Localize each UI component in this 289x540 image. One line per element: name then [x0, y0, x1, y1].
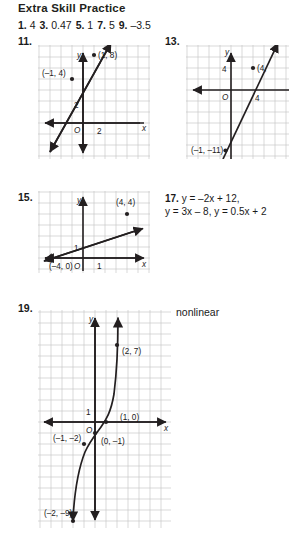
point-label-1-8: (1, 8) [98, 51, 117, 60]
point-label-2-7: (2, 7) [122, 347, 141, 356]
answer-value: –3.5 [130, 19, 150, 31]
graph-19: (2, 7) (1, 0) (0, –1) (–1, –2) (–2, –9) … [38, 310, 171, 528]
graph-13: (–1, –11) (4, 4 4 O y [186, 45, 289, 159]
answer-value: 0.47 [51, 19, 71, 31]
graph-15-svg: (4, 4) (–4, 0) 1 1 O y x [38, 191, 150, 273]
origin-label-15: O [74, 262, 81, 271]
answer-item: 9. –3.5 [119, 19, 151, 31]
axes-15 [45, 197, 144, 271]
plot-line-15 [44, 229, 143, 262]
y-tick-1: 1 [74, 244, 79, 253]
answer-item: 1. 4 [18, 19, 36, 31]
answer-value: 4 [30, 19, 36, 31]
point-label-neg2-neg9: (–2, –9) [44, 509, 72, 518]
point-label-neg1-neg11: (–1, –11) [191, 146, 223, 155]
y-axis-label-11: y [76, 51, 82, 60]
answer-item: 5. 1 [76, 19, 94, 31]
problem-number-15: 15. [18, 191, 33, 203]
origin-label-11: O [74, 126, 81, 135]
grid-lines-19 [38, 310, 171, 528]
graph-15: (4, 4) (–4, 0) 1 1 O y x [38, 191, 150, 273]
plot-line-11 [50, 45, 111, 152]
point-label-0-neg1: (0, –1) [101, 437, 125, 446]
answer-number: 5. [76, 19, 85, 31]
graph-13-svg: (–1, –11) (4, 4 4 O y [186, 45, 289, 159]
x-axis-label-19: x [163, 424, 169, 433]
y-tick-2: 2 [74, 101, 79, 110]
origin-label-13: O [222, 93, 229, 102]
answer-number: 7. [97, 19, 106, 31]
answer-list: 1. 43. 0.475. 17. 59. –3.5 [18, 19, 155, 31]
x-axis-label-15: x [141, 260, 147, 269]
y-axis-label-19: y [88, 315, 94, 324]
worksheet-page: Extra Skill Practice 1. 43. 0.475. 17. 5… [0, 0, 289, 540]
problem-number-13: 13. [165, 35, 180, 47]
graph-11: (–1, 4) (1, 8) 2 2 O y x [38, 45, 150, 159]
problem-number-17: 17. [165, 193, 179, 204]
problem-19-answer: nonlinear [176, 306, 219, 318]
x-axis-label-11: x [141, 124, 147, 133]
axes-13 [193, 53, 289, 159]
answer-item: 7. 5 [97, 19, 115, 31]
y-axis-label-15: y [76, 196, 82, 205]
point-label-4-4: (4, [257, 64, 267, 73]
answer-value: 1 [87, 19, 93, 31]
y-tick-1-g19: 1 [86, 408, 91, 417]
problem-17-line1: 17. y = –2x + 12, [165, 192, 266, 205]
answer-item: 3. 0.47 [40, 19, 72, 31]
problem-number-19: 19. [18, 302, 33, 314]
point-label-neg4-0: (–4, 0) [49, 262, 73, 271]
problem-17-line2: y = 3x – 8, y = 0.5x + 2 [165, 205, 266, 218]
point-label-neg1-4: (–1, 4) [42, 69, 66, 78]
graph-19-svg: (2, 7) (1, 0) (0, –1) (–1, –2) (–2, –9) … [38, 310, 171, 528]
point-label-neg1-neg2: (–1, –2) [53, 434, 81, 443]
origin-label-19: O [86, 426, 93, 435]
answer-value: 5 [109, 19, 115, 31]
x-tick-4: 4 [255, 94, 260, 103]
point-label-1-0: (1, 0) [120, 413, 139, 422]
y-axis-label-13: y [224, 48, 230, 57]
problem-17-eq1: y = –2x + 12, [182, 193, 240, 204]
problem-17-answer: 17. y = –2x + 12, y = 3x – 8, y = 0.5x +… [165, 192, 266, 218]
problem-number-11: 11. [18, 35, 32, 47]
x-tick-1: 1 [97, 262, 102, 271]
graph-13-text: (–1, –11) (4, 4 4 O y [191, 48, 267, 155]
grid-lines-13 [186, 45, 289, 159]
point-label-4-4-g15: (4, 4) [116, 198, 135, 207]
x-tick-2: 2 [97, 127, 102, 136]
page-title: Extra Skill Practice [18, 2, 126, 14]
y-tick-4: 4 [222, 65, 227, 74]
answer-number: 1. [18, 19, 27, 31]
answer-number: 9. [119, 19, 128, 31]
graph-11-svg: (–1, 4) (1, 8) 2 2 O y x [38, 45, 150, 159]
answer-number: 3. [40, 19, 49, 31]
graph-15-text: (4, 4) (–4, 0) 1 1 O y x [49, 196, 147, 271]
